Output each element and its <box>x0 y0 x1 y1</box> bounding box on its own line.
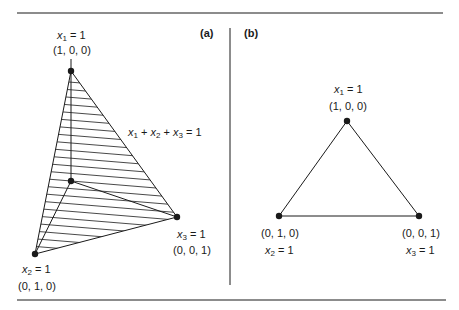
vertex-x3-dot <box>416 213 422 219</box>
vertex-x2-coords: (0, 1, 0) <box>261 227 299 239</box>
hatch-line <box>20 86 190 100</box>
panel-b-label: (b) <box>244 27 258 39</box>
hatch-line <box>20 184 190 198</box>
simplex-figure: (a) x1 = 1 (1, 0, 0) x1 + x2 + x3 = 1 x2… <box>0 0 459 310</box>
hatch-line <box>20 146 190 160</box>
hatch-line <box>20 245 190 259</box>
vertex-x1-dot <box>344 118 350 124</box>
hatch-line <box>20 215 190 229</box>
hatch-line <box>20 177 190 191</box>
vertex-x3-coords: (0, 0, 1) <box>402 227 440 239</box>
vertex-x3-equation: x3 = 1 <box>176 228 206 242</box>
vertex-x3-dot <box>174 214 180 220</box>
vertex-x2-dot <box>32 251 38 257</box>
hatch-line <box>20 78 190 92</box>
hatch-line <box>20 139 190 153</box>
axis-x2 <box>35 181 71 254</box>
vertex-x3-coords: (0, 0, 1) <box>173 244 211 256</box>
simplex-triangle <box>279 121 419 216</box>
vertex-x2-dot <box>276 213 282 219</box>
hatch-line <box>20 222 190 236</box>
vertex-x1-dot <box>68 68 74 74</box>
panel-b: (b) x1 = 1 (1, 0, 0) (0, 1, 0) x2 = 1 (0… <box>244 27 440 258</box>
simplex-hatching <box>20 78 190 274</box>
vertex-x1-equation: x1 = 1 <box>333 83 363 97</box>
vertex-x1-equation: x1 = 1 <box>56 29 86 43</box>
vertex-x2-equation: x2 = 1 <box>21 263 51 277</box>
origin-dot <box>68 178 74 184</box>
vertex-x2-equation: x2 = 1 <box>264 244 294 258</box>
hatch-line <box>20 101 190 115</box>
simplex-outline <box>35 71 177 254</box>
hatch-line <box>20 154 190 168</box>
hatch-line <box>20 108 190 122</box>
vertex-x1-coords: (1, 0, 0) <box>53 44 91 56</box>
vertex-x2-coords: (0, 1, 0) <box>18 280 56 292</box>
hatch-line <box>20 162 190 176</box>
axis-x3 <box>71 181 177 217</box>
hatch-line <box>20 93 190 107</box>
vertex-x3-equation: x3 = 1 <box>405 244 435 258</box>
hatch-line <box>20 169 190 183</box>
hatch-line <box>20 238 190 252</box>
vertex-x1-coords: (1, 0, 0) <box>329 100 367 112</box>
panel-a: (a) x1 = 1 (1, 0, 0) x1 + x2 + x3 = 1 x2… <box>18 27 214 292</box>
panel-a-label: (a) <box>200 27 214 39</box>
hatch-line <box>20 207 190 221</box>
plane-equation: x1 + x2 + x3 = 1 <box>127 126 202 140</box>
